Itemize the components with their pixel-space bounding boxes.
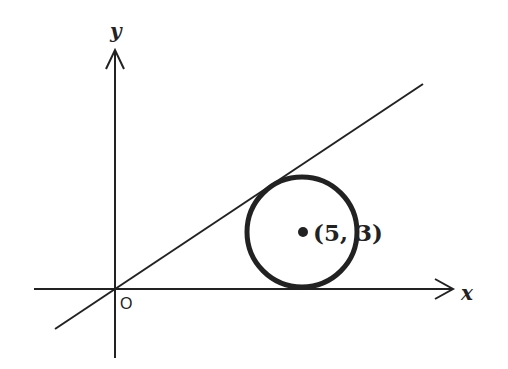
x-axis-label: x [460,281,474,305]
coordinate-diagram: y x O (5, 3) [0,0,508,369]
center-coordinate-label: (5, 3) [313,219,383,246]
tangent-line [55,84,423,329]
center-point [298,227,308,237]
y-axis-label: y [109,19,123,43]
x-axis [34,279,453,299]
origin-label: O [120,295,132,312]
